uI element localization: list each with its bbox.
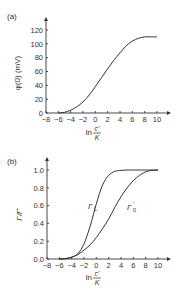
x-tick-label: 6 <box>130 115 134 124</box>
x-tick-label: −2 <box>79 115 88 124</box>
x-tick-label: −6 <box>55 261 64 270</box>
x-tick-label: 6 <box>131 261 135 270</box>
panel-a-phi-curve <box>58 37 157 113</box>
y-tick-label: 20 <box>35 95 43 104</box>
x-axis-arrow-icon <box>167 111 171 115</box>
y-axis-arrow-icon <box>44 17 48 21</box>
x-label-numerator: c' <box>95 270 101 277</box>
panel-a-label: (a) <box>7 12 17 21</box>
x-tick-label: −2 <box>80 261 89 270</box>
x-axis-arrow-icon <box>167 257 171 261</box>
x-tick-label: −4 <box>66 115 75 124</box>
gamma-l-sub: L <box>94 206 97 212</box>
x-label-numerator: c' <box>95 125 101 132</box>
y-tick-label: 0.0 <box>34 255 44 264</box>
curve-label-gamma-l: Γ L <box>88 202 97 212</box>
x-tick-label: 0 <box>94 261 98 270</box>
x-tick-label: −4 <box>67 261 76 270</box>
panel-a-y-axis-label: φ(0) (mV) <box>13 55 22 90</box>
y-tick-label: 0.8 <box>34 184 44 193</box>
y-tick-label: 40 <box>35 81 43 90</box>
x-tick-label: −8 <box>43 261 52 270</box>
y-tick-label: 80 <box>35 53 43 62</box>
x-tick-label: 8 <box>144 261 148 270</box>
gamma-l-main: Γ <box>88 202 93 211</box>
x-tick-label: 2 <box>106 115 110 124</box>
curve-label-gamma-0: Γ ' 0 <box>127 201 136 213</box>
x-tick-label: 4 <box>119 261 123 270</box>
y-tick-label: 120 <box>30 26 43 35</box>
y-tick-label: 0.4 <box>34 219 44 228</box>
panel-b-y-axis-label: Γ/Γ̂ <box>15 207 24 220</box>
x-tick-label: 4 <box>118 115 122 124</box>
gamma-0-sub: 0 <box>133 207 136 213</box>
x-label-ln: ln <box>86 128 92 137</box>
x-tick-label: 10 <box>153 115 161 124</box>
panel-b-axes: −8−6−4−202468100.00.20.40.60.81.0 <box>34 157 171 270</box>
gamma-0-main: Γ <box>127 203 132 212</box>
panel-a-axes: −8−6−4−20246810020406080100120 <box>30 17 171 124</box>
y-axis-arrow-icon <box>45 157 49 161</box>
x-tick-label: −6 <box>54 115 63 124</box>
y-tick-label: 100 <box>30 40 43 49</box>
x-tick-label: 8 <box>143 115 147 124</box>
figure: (a) φ(0) (mV) −8−6−4−2024681002040608010… <box>0 0 183 296</box>
y-tick-label: 0.6 <box>34 201 44 210</box>
x-label-denominator: K <box>95 134 100 141</box>
x-tick-label: −8 <box>42 115 51 124</box>
x-label-denominator: K <box>95 279 100 286</box>
panel-b-gamma-l-curve <box>59 170 158 259</box>
x-label-ln: ln <box>86 273 92 282</box>
panel-b-gamma-0-curve <box>59 170 158 259</box>
panel-b-x-axis-label: ln c' K <box>86 270 101 286</box>
panel-b-label: (b) <box>7 157 17 166</box>
y-tick-label: 60 <box>35 67 43 76</box>
panel-a-chart: (a) φ(0) (mV) −8−6−4−2024681002040608010… <box>7 12 171 141</box>
panel-a-x-axis-label: ln c' K <box>86 125 101 141</box>
x-tick-label: 10 <box>154 261 162 270</box>
panel-b-chart: (b) Γ/Γ̂ −8−6−4−202468100.00.20.40.60.81… <box>7 157 171 286</box>
x-tick-label: 2 <box>107 261 111 270</box>
y-tick-label: 0.2 <box>34 237 44 246</box>
y-tick-label: 0 <box>39 109 43 118</box>
y-tick-label: 1.0 <box>34 166 44 175</box>
x-tick-label: 0 <box>93 115 97 124</box>
